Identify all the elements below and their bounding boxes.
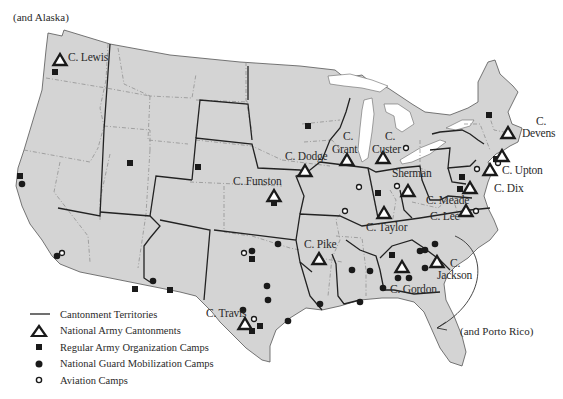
camp-label: C. xyxy=(343,131,353,143)
legend-label: National Guard Mobilization Camps xyxy=(60,358,214,369)
camp-label: Jackson xyxy=(437,270,472,282)
ring-icon xyxy=(28,373,50,387)
legend-label: Cantonment Territories xyxy=(60,309,157,320)
square-icon xyxy=(28,340,50,354)
camp-label: C. Lewis xyxy=(68,52,108,64)
national-guard-camp-marker xyxy=(357,299,364,306)
regular-army-camp-marker xyxy=(249,256,255,262)
aviation-camp-marker xyxy=(343,209,348,214)
regular-army-camp-marker xyxy=(389,252,395,258)
camp-label: C. Taylor xyxy=(366,222,407,234)
camp-label: C. Gordon xyxy=(390,284,437,296)
camp-label: C. Dodge xyxy=(285,151,327,163)
legend: Cantonment Territories National Army Can… xyxy=(28,306,214,389)
national-guard-camp-marker xyxy=(380,285,387,292)
national-guard-camp-marker xyxy=(367,268,374,275)
aviation-camp-marker xyxy=(252,317,257,322)
regular-army-camp-marker xyxy=(457,186,463,192)
legend-label: Regular Army Organization Camps xyxy=(60,342,209,353)
aviation-camp-marker xyxy=(60,251,65,256)
regular-army-camp-marker xyxy=(132,286,138,292)
regular-army-camp-marker xyxy=(127,160,133,166)
territory-line-icon xyxy=(28,307,50,321)
legend-item-cantonments: National Army Cantonments xyxy=(28,323,214,340)
national-guard-camp-marker xyxy=(249,248,256,255)
camp-label: C. Upton xyxy=(502,165,543,177)
national-guard-camp-marker xyxy=(317,301,324,308)
aviation-camp-marker xyxy=(357,185,362,190)
national-guard-camp-marker xyxy=(422,247,429,254)
regular-army-camp-marker xyxy=(17,173,23,179)
aviation-camp-marker xyxy=(242,251,247,256)
national-guard-camp-marker xyxy=(349,267,356,274)
camp-label: C. xyxy=(385,131,395,143)
legend-item-national-guard: National Guard Mobilization Camps xyxy=(28,356,214,373)
camp-label: C. Funston xyxy=(233,176,282,188)
camp-label: Devens xyxy=(522,128,555,140)
camp-label: C. Meade xyxy=(426,195,469,207)
camp-label: C. Dix xyxy=(494,183,523,195)
national-guard-camp-marker xyxy=(19,181,26,188)
national-guard-camp-marker xyxy=(422,265,429,272)
legend-item-territories: Cantonment Territories xyxy=(28,306,214,323)
aviation-camp-marker xyxy=(404,146,409,151)
camp-label: Grant xyxy=(332,144,357,156)
dot-icon xyxy=(28,357,50,371)
regular-army-camp-marker xyxy=(486,112,492,118)
camp-label: Custer xyxy=(372,144,401,156)
aviation-camp-marker xyxy=(395,184,400,189)
camp-label: Sherman xyxy=(392,168,431,180)
legend-label: National Army Cantonments xyxy=(60,325,181,336)
camp-label: C. xyxy=(536,116,546,128)
porto-rico-note: (and Porto Rico) xyxy=(460,326,533,337)
national-guard-camp-marker xyxy=(406,275,413,282)
national-guard-camp-marker xyxy=(285,318,292,325)
national-guard-camp-marker xyxy=(150,278,157,285)
alaska-note: (and Alaska) xyxy=(13,12,69,23)
triangle-icon xyxy=(28,324,50,338)
legend-item-regular-army: Regular Army Organization Camps xyxy=(28,339,214,356)
national-guard-camp-marker xyxy=(264,283,271,290)
regular-army-camp-marker xyxy=(257,323,263,329)
regular-army-camp-marker xyxy=(52,69,58,75)
aviation-camp-marker xyxy=(475,167,480,172)
national-guard-camp-marker xyxy=(265,297,272,304)
legend-label: Aviation Camps xyxy=(60,375,128,386)
regular-army-camp-marker xyxy=(375,190,381,196)
national-guard-camp-marker xyxy=(275,241,282,248)
regular-army-camp-marker xyxy=(195,164,201,170)
national-guard-camp-marker xyxy=(395,275,402,282)
regular-army-camp-marker xyxy=(459,174,465,180)
legend-item-aviation: Aviation Camps xyxy=(28,372,214,389)
camp-label: C. Pike xyxy=(304,239,336,251)
aviation-camp-marker xyxy=(474,209,479,214)
camp-label: C. Lee xyxy=(430,211,459,223)
camp-label: C. xyxy=(450,258,460,270)
national-guard-camp-marker xyxy=(432,241,439,248)
regular-army-camp-marker xyxy=(167,287,173,293)
regular-army-camp-marker xyxy=(305,123,311,129)
